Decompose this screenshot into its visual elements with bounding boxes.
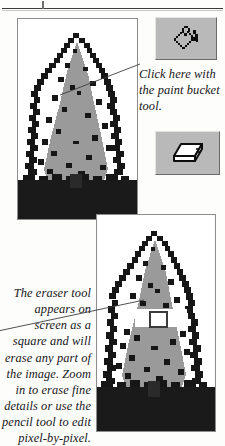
header-rule-shadow <box>2 10 223 11</box>
tree-illustration-top <box>18 19 137 219</box>
header-rule <box>2 8 223 9</box>
paint-bucket-callout-text: Click here with the paint bucket tool. <box>139 66 225 114</box>
paint-bucket-tool-button[interactable] <box>155 17 217 60</box>
eraser-tool-button[interactable] <box>155 131 220 175</box>
paint-bucket-leader-line <box>60 62 142 96</box>
paint-bucket-icon <box>171 25 201 53</box>
header-tick-mark <box>42 1 44 9</box>
eraser-icon <box>170 140 206 166</box>
eraser-leader-line <box>0 300 146 332</box>
tree-image-panel-top[interactable] <box>17 18 138 220</box>
